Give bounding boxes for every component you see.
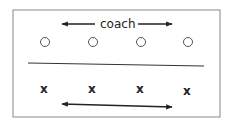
player-x: x: [88, 82, 96, 96]
player-circle-icon: [89, 38, 98, 47]
player-x: x: [40, 82, 48, 96]
player-x: x: [136, 82, 144, 96]
player-circle-icon: [184, 38, 193, 47]
player-x: x: [183, 84, 191, 98]
player-circle-icon: [137, 38, 146, 47]
player-circle-icon: [41, 38, 50, 47]
coach-label: coach: [100, 17, 136, 31]
drill-diagram: coach x x x x: [0, 0, 230, 127]
double-arrow: [62, 104, 172, 107]
divider-line: [28, 63, 204, 66]
